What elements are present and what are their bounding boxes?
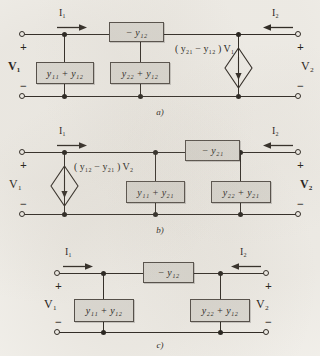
shunt-right-box-c[interactable]: y₂₂ + y₁₂ xyxy=(190,299,250,322)
caption-a: a) xyxy=(0,107,320,117)
current-arrow-output-a xyxy=(262,23,294,32)
circuit-a: − y₁₂ y₁₁ + y₁₂ y₂₂ + y₁₂ ( y₂₁ − y₁₂ ) … xyxy=(0,0,320,118)
node-bottom-right-a xyxy=(236,94,241,99)
series-admittance-box-c[interactable]: − y₁₂ xyxy=(143,262,194,283)
node-bottom-mid-a xyxy=(138,94,143,99)
terminal-output-bottom-a[interactable] xyxy=(295,93,301,99)
polarity-minus-output-c: − xyxy=(265,316,272,328)
series-admittance-box-a[interactable]: − y₁₂ xyxy=(109,22,164,42)
current-label-input-b: I₁ xyxy=(59,126,66,136)
current-arrow-input-c xyxy=(62,262,94,271)
circuit-b: − y₂₁ y₁₁ + y₂₁ y₂₂ + y₂₁ ( y₁₂ − y₂₁ ) … xyxy=(0,118,320,236)
series-admittance-label-a: − y₁₂ xyxy=(126,27,148,38)
shunt-right-label-b: y₂₂ + y₂₁ xyxy=(223,187,259,198)
polarity-minus-input-c: − xyxy=(55,316,62,328)
polarity-plus-input-c: + xyxy=(55,280,62,292)
current-arrow-output-c xyxy=(230,262,262,271)
voltage-label-input-b: V₁ xyxy=(9,178,22,190)
shunt-left-label-b: y₁₁ + y₂₁ xyxy=(137,187,173,198)
voltage-label-output-b: V₂ xyxy=(300,178,312,190)
node-bottom-left-b xyxy=(62,212,67,217)
circuit-c: − y₁₂ y₁₁ + y₁₂ y₂₂ + y₁₂ I₁ I₂ + − + − … xyxy=(0,240,320,356)
source-control-label-b: ( y₁₂ − y₂₁ ) V₂ xyxy=(74,162,133,172)
current-label-input-a: I₁ xyxy=(59,8,66,18)
current-label-output-c: I₂ xyxy=(240,247,247,257)
current-arrow-input-b xyxy=(56,141,88,150)
polarity-plus-input-b: + xyxy=(20,159,27,171)
polarity-plus-output-b: + xyxy=(297,159,304,171)
polarity-plus-output-c: + xyxy=(265,280,272,292)
node-top-left-c xyxy=(101,271,106,276)
node-top-right-c xyxy=(218,271,223,276)
wire-top-right-c xyxy=(193,273,266,274)
shunt-left-label-c: y₁₁ + y₁₂ xyxy=(86,305,122,316)
node-bottom-mid-b xyxy=(153,212,158,217)
polarity-minus-input-b: − xyxy=(20,198,27,210)
polarity-minus-output-a: − xyxy=(297,80,304,92)
polarity-minus-output-b: − xyxy=(297,198,304,210)
wire-bottom-c xyxy=(57,332,266,333)
shunt-left-box-c[interactable]: y₁₁ + y₁₂ xyxy=(74,299,134,322)
series-admittance-label-b: − y₂₁ xyxy=(202,145,224,156)
node-top-left-a xyxy=(62,32,67,37)
terminal-input-bottom-c[interactable] xyxy=(54,329,60,335)
shunt-right-box-b[interactable]: y₂₂ + y₂₁ xyxy=(211,181,271,203)
node-top-left-b xyxy=(62,150,67,155)
shunt-right-box-a[interactable]: y₂₂ + y₁₂ xyxy=(110,62,170,84)
polarity-minus-input-a: − xyxy=(20,80,27,92)
terminal-input-top-b[interactable] xyxy=(19,149,25,155)
wire-top-right-a xyxy=(163,34,298,35)
terminal-output-top-a[interactable] xyxy=(295,31,301,37)
series-admittance-label-c: − y₁₂ xyxy=(158,267,180,278)
current-arrow-input-a xyxy=(56,23,88,32)
terminal-output-top-b[interactable] xyxy=(295,149,301,155)
node-top-right-a xyxy=(236,32,241,37)
shunt-left-box-b[interactable]: y₁₁ + y₂₁ xyxy=(126,181,185,203)
terminal-output-bottom-c[interactable] xyxy=(263,329,269,335)
polarity-plus-input-a: + xyxy=(20,41,27,53)
current-arrow-output-b xyxy=(262,141,294,150)
polarity-plus-output-a: + xyxy=(297,41,304,53)
caption-b: b) xyxy=(0,225,320,235)
node-top-mid-b xyxy=(153,150,158,155)
voltage-label-input-c: V₁ xyxy=(44,298,57,310)
shunt-left-label-a: y₁₁ + y₁₂ xyxy=(47,68,83,79)
voltage-label-output-a: V₂ xyxy=(301,60,314,72)
figure-page: − y₁₂ y₁₁ + y₁₂ y₂₂ + y₁₂ ( y₂₁ − y₁₂ ) … xyxy=(0,0,320,356)
voltage-label-input-a: V₁ xyxy=(8,60,20,72)
wire-top-right-b xyxy=(240,152,298,153)
node-bottom-right-c xyxy=(218,330,223,335)
shunt-right-label-c: y₂₂ + y₁₂ xyxy=(202,305,238,316)
current-label-input-c: I₁ xyxy=(65,247,72,257)
node-bottom-left-a xyxy=(62,94,67,99)
terminal-input-top-a[interactable] xyxy=(19,31,25,37)
terminal-input-bottom-b[interactable] xyxy=(19,211,25,217)
current-label-output-b: I₂ xyxy=(272,126,279,136)
terminal-output-top-c[interactable] xyxy=(263,270,269,276)
caption-c: c) xyxy=(0,340,320,350)
terminal-output-bottom-b[interactable] xyxy=(295,211,301,217)
shunt-right-label-a: y₂₂ + y₁₂ xyxy=(122,68,158,79)
node-bottom-right-b xyxy=(238,212,243,217)
series-admittance-box-b[interactable]: − y₂₁ xyxy=(185,140,240,161)
wire-top-left-b xyxy=(22,152,185,153)
voltage-label-output-c: V₂ xyxy=(256,298,269,310)
node-bottom-left-c xyxy=(101,330,106,335)
terminal-input-bottom-a[interactable] xyxy=(19,93,25,99)
terminal-input-top-c[interactable] xyxy=(54,270,60,276)
source-control-label-a: ( y₂₁ − y₁₂ ) V₁ xyxy=(175,44,234,54)
current-label-output-a: I₂ xyxy=(272,8,279,18)
shunt-left-box-a[interactable]: y₁₁ + y₁₂ xyxy=(36,62,94,84)
